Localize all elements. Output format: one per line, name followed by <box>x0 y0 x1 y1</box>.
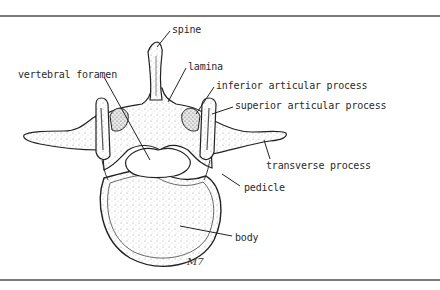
label-superior-articular-process: superior articular process <box>235 100 386 112</box>
leader-pedicle <box>222 174 240 186</box>
label-lamina: lamina <box>188 61 223 73</box>
leader-spine <box>157 31 170 47</box>
label-transverse-process: transverse process <box>266 160 371 172</box>
vertebral-body <box>100 170 221 267</box>
label-vertebral-foramen: vertebral foramen <box>18 69 117 81</box>
leader-lamina <box>168 68 186 102</box>
vertebral-foramen-opening <box>126 148 191 177</box>
spinous-process <box>148 42 162 100</box>
label-body: body <box>235 232 258 244</box>
diagram-canvas: spine vertebral foramen lamina inferior … <box>0 0 440 290</box>
label-spine: spine <box>172 24 201 36</box>
left-transverse-process <box>24 116 100 150</box>
label-inferior-articular-process: inferior articular process <box>216 80 367 92</box>
left-superior-articular-process <box>96 98 110 159</box>
label-pedicle: pedicle <box>244 182 285 194</box>
right-transverse-process <box>206 118 286 154</box>
vertebra-illustration <box>0 0 440 290</box>
artist-signature: M7 <box>187 256 204 267</box>
leader-transverse-process <box>264 140 270 159</box>
